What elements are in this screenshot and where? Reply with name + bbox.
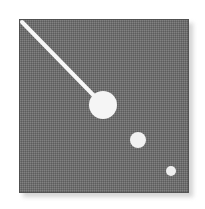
tertiary-object-marker — [166, 166, 176, 176]
primary-object-marker — [89, 91, 117, 119]
figure-container — [0, 0, 205, 209]
figure-canvas — [0, 0, 205, 209]
secondary-object-marker — [130, 132, 146, 148]
